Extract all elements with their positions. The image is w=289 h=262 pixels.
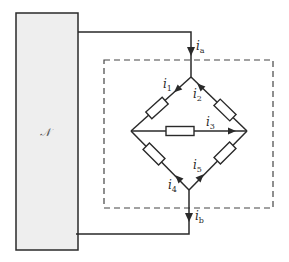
i5-label: i5	[193, 158, 202, 174]
resistor-2	[214, 99, 236, 121]
resistor-5	[214, 142, 236, 164]
i1-label: i1	[163, 77, 172, 93]
ia-arrow-icon	[187, 47, 195, 56]
bottom-wire	[76, 190, 189, 234]
resistor-4	[143, 143, 165, 165]
circuit-diagram: 𝒩 ia ib	[0, 0, 289, 262]
ib-arrow-icon	[185, 213, 193, 222]
ib-label: ib	[195, 209, 204, 225]
i4-label: i4	[168, 178, 177, 194]
resistor-3	[166, 127, 194, 136]
i3-label: i3	[206, 115, 215, 131]
ia-label: ia	[196, 39, 205, 55]
top-wire	[78, 32, 191, 77]
resistor-1	[146, 97, 168, 118]
i3-arrow-icon	[228, 128, 236, 135]
network-block: 𝒩	[16, 13, 78, 250]
